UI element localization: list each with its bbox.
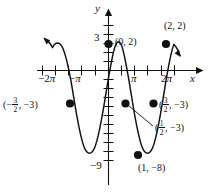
x-tick-label-pi: π	[131, 73, 137, 84]
x-tick-negpi-pi: π	[75, 72, 81, 84]
point-label-one-half: (12, −3)	[155, 120, 184, 137]
y-tick-label-3: 3	[94, 32, 100, 43]
point-label-neg-three-halves: (−32, −3)	[3, 97, 38, 114]
p12-numerator: 1	[159, 120, 165, 129]
x-tick-2pi-pi: π	[167, 72, 173, 84]
p12-denominator: 2	[159, 128, 165, 136]
dot-neg32	[66, 99, 74, 107]
p12-yvalue: −3	[170, 122, 181, 133]
neg32-yvalue: −3	[24, 99, 35, 110]
neg32-fraction: 32	[12, 97, 18, 114]
x-axis-label: x	[190, 73, 195, 84]
p12-comma: ,	[165, 122, 168, 133]
p32-close: )	[185, 99, 188, 110]
point-label-three-halves: (32, −3)	[159, 97, 188, 114]
neg32-close: )	[34, 99, 37, 110]
point-label-1-neg8: (1, −8)	[138, 163, 165, 173]
y-axis-label: y	[95, 3, 100, 14]
neg32-comma: ,	[19, 99, 22, 110]
p32-comma: ,	[169, 99, 172, 110]
x-tick-label-neg-2pi: −2π	[38, 73, 55, 84]
y-tick-label-neg9: −9	[90, 160, 102, 171]
neg32-denominator: 2	[12, 105, 18, 113]
dot-0-2	[104, 40, 112, 48]
dot-2-2	[162, 40, 170, 48]
x-axis	[37, 67, 204, 74]
x-tick-neg2pi-pi: π	[50, 72, 56, 84]
point-label-2-2: (2, 2)	[164, 21, 186, 31]
neg32-sign: −	[6, 99, 12, 110]
p32-numerator: 3	[163, 97, 169, 106]
x-tick-label-neg-pi: −π	[69, 73, 81, 84]
curve-right-arrowhead	[174, 45, 181, 58]
p12-open: (	[155, 122, 158, 133]
dot-half	[121, 99, 129, 107]
dot-1-neg8	[134, 151, 142, 159]
p32-denominator: 2	[163, 105, 169, 113]
neg32-numerator: 3	[12, 97, 18, 106]
leader-line-half	[126, 104, 153, 127]
p32-fraction: 32	[163, 97, 169, 114]
graph-figure: y x 3 −9 −2π −π π 2π (0, 2) (2, 2) (−32,…	[0, 0, 209, 193]
x-tick-label-2pi: 2π	[161, 73, 172, 84]
p12-close: )	[181, 122, 184, 133]
curve-left-arrowhead	[44, 38, 53, 48]
point-label-0-2: (0, 2)	[115, 37, 137, 47]
p12-fraction: 12	[159, 120, 165, 137]
p32-open: (	[159, 99, 162, 110]
dot-32	[149, 99, 157, 107]
p32-yvalue: −3	[174, 99, 185, 110]
